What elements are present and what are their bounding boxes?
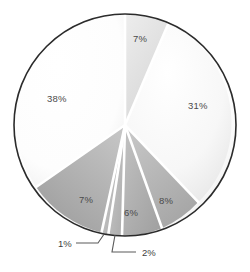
pie-label-38: 38% (47, 93, 67, 104)
pie-chart-svg (0, 0, 250, 272)
pie-label-6: 6% (124, 207, 138, 218)
callout-line-1pct (76, 234, 105, 244)
pie-label-7-left: 7% (79, 194, 93, 205)
pie-label-2: 2% (142, 247, 156, 258)
pie-label-1: 1% (58, 238, 72, 249)
pie-label-8: 8% (159, 195, 173, 206)
callout-line-2pct (112, 235, 136, 252)
pie-chart-figure: 7% 31% 8% 6% 7% 38% 1% 2% (0, 0, 250, 272)
pie-label-7-top: 7% (133, 33, 147, 44)
pie-label-31: 31% (188, 100, 208, 111)
